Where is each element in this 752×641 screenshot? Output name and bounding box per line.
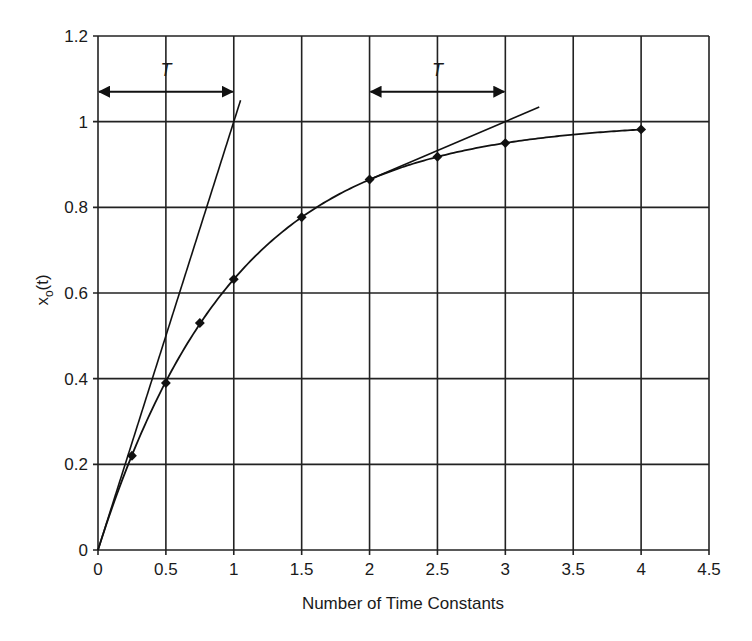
y-tick-label: 0.8 xyxy=(64,198,88,217)
initial-tangent-line xyxy=(98,100,241,550)
x-tick-label: 0 xyxy=(93,560,102,579)
y-tick-label: 1.2 xyxy=(64,27,88,46)
tangent-at-2-line xyxy=(370,107,540,179)
x-tick-label: 3.5 xyxy=(561,560,585,579)
x-tick-label: 0.5 xyxy=(154,560,178,579)
x-tick-label: 4 xyxy=(636,560,645,579)
tick-labels: 00.511.522.533.544.500.20.40.60.811.2 xyxy=(64,27,720,579)
x-tick-label: 1 xyxy=(229,560,238,579)
y-tick-label: 0.4 xyxy=(64,370,88,389)
x-tick-label: 2 xyxy=(365,560,374,579)
grid-lines xyxy=(93,36,709,555)
x-tick-label: 1.5 xyxy=(290,560,314,579)
data-point-marker xyxy=(432,152,442,162)
y-tick-label: 0.6 xyxy=(64,284,88,303)
period-label: T xyxy=(160,60,173,80)
x-tick-label: 4.5 xyxy=(697,560,721,579)
y-tick-label: 0 xyxy=(79,541,88,560)
x-tick-label: 2.5 xyxy=(426,560,450,579)
y-axis-title-tail: (t) xyxy=(33,274,52,290)
y-axis-title: xo(t) xyxy=(33,274,56,305)
chart: 00.511.522.533.544.500.20.40.60.811.2 TT… xyxy=(0,0,752,641)
period-label: T xyxy=(432,60,445,80)
y-tick-label: 0.2 xyxy=(64,455,88,474)
data-point-marker xyxy=(636,124,646,134)
plot-area xyxy=(98,100,646,550)
x-tick-label: 3 xyxy=(501,560,510,579)
y-tick-label: 1 xyxy=(79,113,88,132)
x-axis-title: Number of Time Constants xyxy=(302,594,504,613)
data-point-marker xyxy=(500,138,510,148)
